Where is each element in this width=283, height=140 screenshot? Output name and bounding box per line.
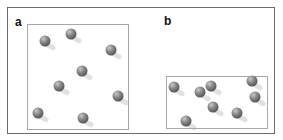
particle-sphere: [195, 87, 206, 98]
particle-sphere: [78, 113, 89, 124]
particle-sphere: [247, 76, 258, 87]
particle-sphere: [77, 66, 88, 77]
particle-sphere: [169, 82, 180, 93]
panel-a-label: a: [15, 16, 22, 28]
particle-sphere: [208, 102, 219, 113]
particle-sphere: [106, 45, 117, 56]
particle-sphere: [181, 116, 192, 127]
particle-sphere: [250, 92, 261, 103]
panel-b-label: b: [164, 15, 171, 27]
particle-sphere: [206, 81, 217, 92]
particle-sphere: [232, 108, 243, 119]
particle-sphere: [40, 36, 51, 47]
particle-sphere: [54, 81, 65, 92]
particle-sphere: [33, 108, 44, 119]
particle-sphere: [113, 91, 124, 102]
particle-sphere: [66, 29, 77, 40]
